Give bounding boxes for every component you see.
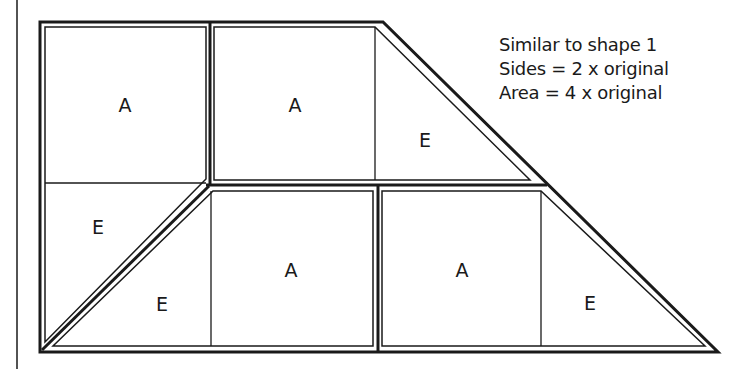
piece-top-left-outline xyxy=(45,27,206,342)
tile-label-a-top-middle: A xyxy=(289,96,302,115)
tile-label-e-top-right: E xyxy=(419,131,431,150)
tile-label-a-bottom-right: A xyxy=(456,261,469,280)
piece-bottom-right-outline xyxy=(382,191,705,346)
piece-top-right-outline xyxy=(214,27,530,180)
caption-line-area: Area = 4 x original xyxy=(499,81,669,105)
tile-label-e-bottom-right: E xyxy=(584,294,596,313)
caption-line-sides: Sides = 2 x original xyxy=(499,57,669,81)
tile-label-e-bottom-left: E xyxy=(156,295,168,314)
caption-line-similarity: Similar to shape 1 xyxy=(499,33,669,57)
piece-separator-diagonal xyxy=(42,186,209,350)
tile-label-a-bottom-middle: A xyxy=(285,261,298,280)
piece-bottom-left-outline xyxy=(53,191,373,346)
tile-label-e-left-middle: E xyxy=(92,218,104,237)
diagram-caption: Similar to shape 1 Sides = 2 x original … xyxy=(499,33,669,105)
tile-label-a-top-left: A xyxy=(119,96,132,115)
